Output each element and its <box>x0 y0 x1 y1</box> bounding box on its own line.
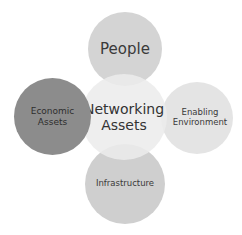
networking-label-line2: Assets <box>84 117 164 133</box>
enabling-label-line2: Environment <box>173 118 227 128</box>
networking-label-line1: Networking <box>84 101 164 117</box>
enabling-environment-label: Enabling Environment <box>167 108 227 128</box>
people-label-text: People <box>100 40 150 58</box>
enabling-environment-circle: Enabling Environment <box>161 82 233 154</box>
infrastructure-label-text: Infrastructure <box>96 178 154 188</box>
economic-assets-circle: Economic Assets <box>14 78 91 155</box>
networking-assets-circle: Networking Assets <box>81 74 167 160</box>
economic-assets-label: Economic Assets <box>31 106 75 127</box>
economic-label-line1: Economic <box>31 106 75 116</box>
economic-label-line2: Assets <box>31 117 75 127</box>
people-label: People <box>100 41 150 58</box>
infrastructure-label: Infrastructure <box>96 179 154 189</box>
networking-assets-diagram: People Infrastructure Enabling Environme… <box>0 0 242 235</box>
networking-assets-label: Networking Assets <box>84 101 164 133</box>
